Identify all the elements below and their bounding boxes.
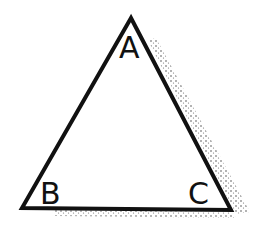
vertex-label-a: A <box>119 30 140 65</box>
triangle-diagram: A B C <box>0 0 263 232</box>
vertex-label-b: B <box>40 176 61 211</box>
vertex-label-c: C <box>188 176 209 211</box>
